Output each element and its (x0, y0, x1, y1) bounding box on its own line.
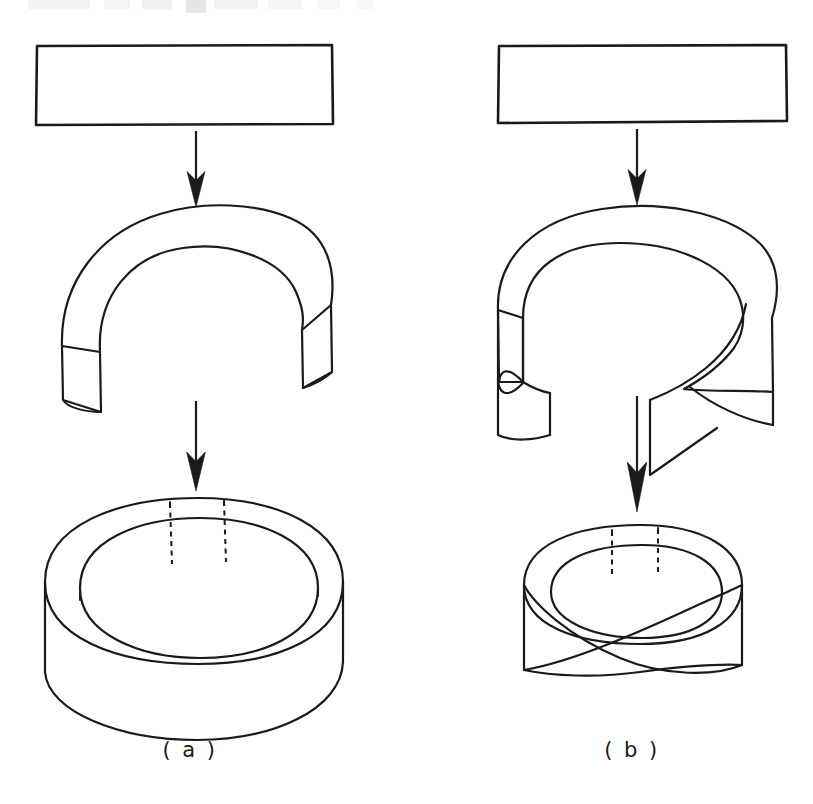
scan-artifact-smudge (28, 0, 90, 9)
stage-b-moebius-band (524, 525, 742, 676)
scan-artifact-smudge (104, 0, 130, 9)
arrow-a-2 (187, 401, 206, 491)
scan-artifact-smudge (142, 0, 172, 9)
figure-svg-canvas: ( a ) (0, 0, 813, 804)
caption-b: ( b ) (604, 738, 660, 762)
stage-a-rectangular-strip (36, 45, 333, 125)
caption-a: ( a ) (162, 738, 217, 762)
figure-container: ( a ) (0, 0, 813, 804)
arrow-b-2 (627, 396, 647, 512)
stage-b-rectangular-strip (498, 45, 787, 123)
scan-artifact-smudge (318, 0, 340, 9)
scan-artifact-smudge (268, 0, 302, 9)
stage-a-open-band (62, 205, 333, 412)
scan-artifact-smudge (186, 0, 206, 13)
arrow-b-1 (628, 129, 646, 205)
scan-artifact-smudge (214, 0, 258, 9)
arrow-a-1 (187, 131, 205, 207)
column-a-group: ( a ) (36, 45, 343, 762)
scan-artifact-smudge (356, 0, 374, 9)
stage-a-cylinder (45, 498, 343, 740)
column-b-group: ( b ) (498, 45, 787, 762)
